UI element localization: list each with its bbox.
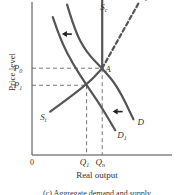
arrow-left-icon [62, 31, 67, 37]
annotations: A [62, 31, 123, 115]
curve-label-d: D [136, 117, 144, 127]
x-tick-label-qn: Qn [95, 157, 105, 168]
curve-label-sc: Sc [100, 2, 108, 13]
curve-se [102, 3, 138, 68]
curve-label-d1: D1 [116, 130, 127, 141]
curve-label-se: Se [141, 0, 149, 2]
y-tick-label-p0: P0 [13, 63, 23, 74]
curves: DD1ScSeSt [40, 0, 148, 141]
curve-st [50, 68, 102, 111]
x-axis-label: Real output [76, 170, 118, 180]
curve-label-st: St [40, 112, 47, 123]
chart-caption: (c) Aggregate demand and supply [43, 189, 151, 195]
arrow-left-icon [113, 109, 118, 115]
y-tick-label-p1: P1 [13, 80, 23, 91]
aggregate-demand-supply-chart: DD1ScSeSt A Price level Real output 0 (c… [0, 0, 180, 195]
origin-label: 0 [30, 158, 34, 167]
curve-d [67, 5, 133, 120]
x-tick-label-q1: Q1 [80, 157, 90, 168]
point-label-a: A [104, 64, 111, 74]
